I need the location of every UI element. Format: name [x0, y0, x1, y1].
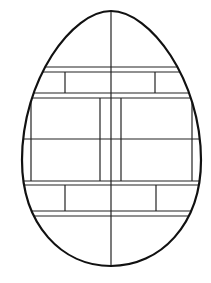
egg-drawing [0, 0, 211, 283]
egg-pattern [0, 0, 211, 283]
egg-coloring-page [0, 0, 211, 283]
